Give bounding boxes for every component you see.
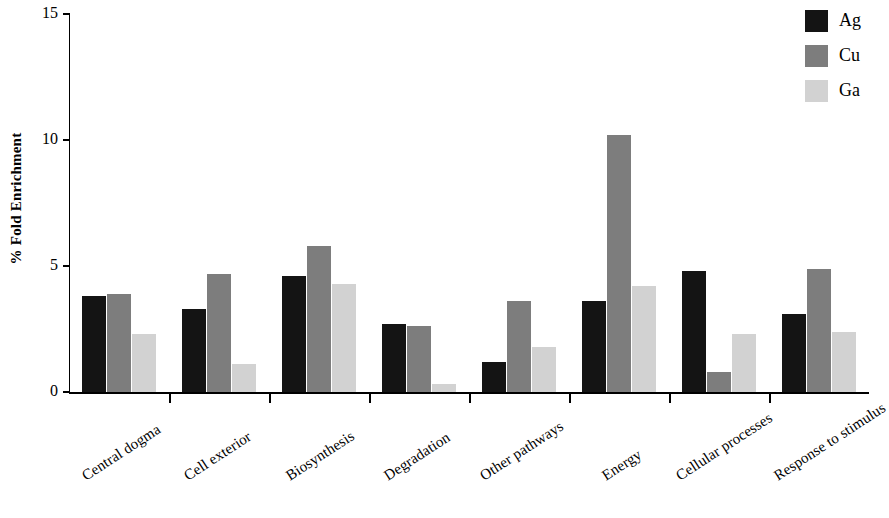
x-axis-tick (769, 393, 771, 403)
x-axis-label: Cell exterior (181, 428, 255, 484)
bar-group (582, 14, 656, 392)
bar-cu (207, 274, 231, 392)
bar-group (382, 14, 456, 392)
bar-ag (582, 301, 606, 392)
bar-ga (532, 347, 556, 392)
x-axis-tick (469, 393, 471, 403)
bar-group (282, 14, 356, 392)
bar-ga (832, 332, 856, 392)
y-axis-tick-label: 5 (18, 257, 58, 273)
legend-swatch-ga (805, 80, 828, 102)
x-axis-tick (569, 393, 571, 403)
bar-ga (332, 284, 356, 392)
x-axis-label: Central dogma (79, 421, 164, 484)
bar-ga (232, 364, 256, 392)
y-axis-tick-label-wrap: 10 (18, 131, 58, 147)
bar-group (782, 14, 856, 392)
legend-swatch-ag (805, 10, 828, 32)
x-axis-tick (269, 393, 271, 403)
bar-ag (182, 309, 206, 392)
x-axis-label: Energy (599, 446, 645, 484)
bar-group (482, 14, 556, 392)
bar-cu (607, 135, 631, 392)
y-axis-tick-label-wrap: 5 (18, 257, 58, 273)
bar-ga (732, 334, 756, 392)
x-axis-tick (169, 393, 171, 403)
x-axis-label: Response to stimulus (771, 399, 889, 484)
x-axis-label: Biosynthesis (283, 428, 358, 485)
bar-cu (407, 326, 431, 392)
bar-group (82, 14, 156, 392)
bar-ag (782, 314, 806, 392)
bar-ga (432, 384, 456, 392)
bar-cu (107, 294, 131, 392)
x-axis-label: Other pathways (477, 418, 567, 485)
plot-area (69, 14, 869, 392)
bar-ga (632, 286, 656, 392)
y-axis-tick-label: 10 (18, 131, 58, 147)
bar-cu (707, 372, 731, 392)
legend-label-cu: Cu (839, 44, 860, 66)
y-axis-tick-label: 0 (18, 383, 58, 399)
bar-ag (682, 271, 706, 392)
bar-ag (82, 296, 106, 392)
bar-cu (807, 269, 831, 392)
bar-ag (382, 324, 406, 392)
legend-label-ga: Ga (839, 79, 860, 101)
y-axis-tick-label-wrap: 15 (18, 5, 58, 21)
legend-swatch-cu (805, 45, 828, 67)
x-axis-label: Degradation (381, 429, 453, 484)
y-axis-tick-label: 15 (18, 5, 58, 21)
bar-ag (482, 362, 506, 392)
y-axis-tick-label-wrap: 0 (18, 383, 58, 399)
bar-group (182, 14, 256, 392)
bar-cu (307, 246, 331, 392)
bar-ga (132, 334, 156, 392)
x-axis-label: Cellular processes (673, 409, 776, 484)
bar-ag (282, 276, 306, 392)
legend-label-ag: Ag (839, 9, 861, 31)
x-axis-tick (669, 393, 671, 403)
x-axis-tick (369, 393, 371, 403)
bar-cu (507, 301, 531, 392)
bar-group (682, 14, 756, 392)
